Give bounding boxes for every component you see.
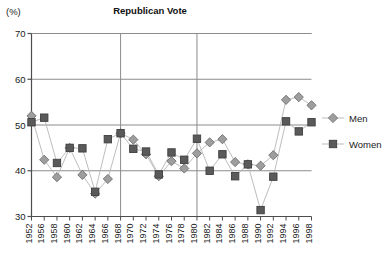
marker-square xyxy=(53,159,60,166)
marker-square xyxy=(181,156,188,163)
x-tick-label: 1962 xyxy=(74,224,84,244)
y-tick-label: 40 xyxy=(15,165,26,176)
marker-square xyxy=(329,140,336,147)
x-tick-label: 1968 xyxy=(113,224,123,244)
marker-square xyxy=(155,171,162,178)
marker-diamond xyxy=(281,95,290,104)
y-tick-label: 30 xyxy=(15,211,26,222)
x-tick-label: 1984 xyxy=(214,224,224,244)
marker-square xyxy=(295,128,302,135)
marker-square xyxy=(91,188,98,195)
marker-square xyxy=(104,135,111,142)
legend-label: Men xyxy=(349,113,367,124)
marker-diamond xyxy=(231,157,240,166)
y-axis-tick-labels: 3040506070 xyxy=(15,28,26,222)
x-tick-label: 1980 xyxy=(189,224,199,244)
x-axis-tick-labels: 1952195619581960196219641966196819701972… xyxy=(24,224,314,244)
x-tick-label: 1956 xyxy=(36,224,46,244)
x-tick-label: 1996 xyxy=(291,224,301,244)
x-tick-label: 1998 xyxy=(304,224,314,244)
marker-square xyxy=(257,206,264,213)
x-tick-label: 1974 xyxy=(151,224,161,244)
marker-diamond xyxy=(40,155,49,164)
legend-label: Women xyxy=(349,139,382,150)
marker-square xyxy=(231,173,238,180)
x-tick-label: 1976 xyxy=(164,224,174,244)
marker-square xyxy=(308,119,315,126)
marker-diamond xyxy=(328,113,337,122)
x-tick-label: 1988 xyxy=(240,224,250,244)
x-tick-label: 1958 xyxy=(49,224,59,244)
marker-diamond xyxy=(78,170,87,179)
marker-diamond xyxy=(294,92,303,101)
marker-square xyxy=(270,173,277,180)
marker-square xyxy=(41,114,48,121)
marker-square xyxy=(28,119,35,126)
x-tick-label: 1992 xyxy=(265,224,275,244)
x-tick-label: 1970 xyxy=(125,224,135,244)
x-tick-label: 1966 xyxy=(100,224,110,244)
x-tick-label: 1994 xyxy=(278,224,288,244)
y-tick-label: 60 xyxy=(15,74,26,85)
series-markers xyxy=(27,92,316,213)
plot-area: 3040506070 19521956195819601962196419661… xyxy=(0,0,387,254)
marker-square xyxy=(117,130,124,137)
x-tick-label: 1952 xyxy=(24,224,34,244)
marker-square xyxy=(219,151,226,158)
marker-square xyxy=(282,118,289,125)
x-tick-label: 1978 xyxy=(176,224,186,244)
marker-square xyxy=(206,167,213,174)
marker-square xyxy=(130,145,137,152)
x-tick-label: 1972 xyxy=(138,224,148,244)
marker-square xyxy=(142,148,149,155)
marker-square xyxy=(168,149,175,156)
marker-diamond xyxy=(307,101,316,110)
y-tick-label: 50 xyxy=(15,120,26,131)
x-tick-label: 1986 xyxy=(227,224,237,244)
marker-square xyxy=(244,161,251,168)
marker-diamond xyxy=(218,135,227,144)
marker-diamond xyxy=(52,173,61,182)
marker-square xyxy=(193,135,200,142)
x-tick-label: 1964 xyxy=(87,224,97,244)
chart-legend: MenWomen xyxy=(322,113,382,150)
marker-square xyxy=(66,144,73,151)
x-tick-label: 1982 xyxy=(202,224,212,244)
y-tick-label: 70 xyxy=(15,28,26,39)
marker-square xyxy=(79,145,86,152)
x-tick-label: 1960 xyxy=(62,224,72,244)
x-tick-label: 1990 xyxy=(253,224,263,244)
x-axis-ticks xyxy=(32,217,312,221)
republican-vote-chart: (%) Republican Vote 3040506070 195219561… xyxy=(0,0,387,254)
